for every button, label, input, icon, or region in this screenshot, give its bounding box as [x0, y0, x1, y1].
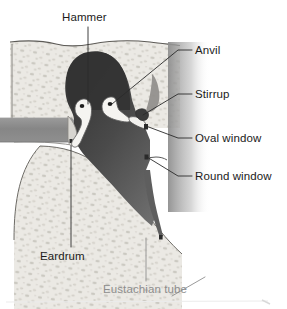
right-edge-shading — [168, 42, 210, 212]
label-stirrup: Stirrup — [195, 88, 230, 101]
label-oval-window: Oval window — [195, 132, 261, 145]
ear-canal — [0, 118, 74, 142]
label-anvil: Anvil — [195, 44, 220, 57]
label-hammer: Hammer — [62, 11, 107, 24]
label-eardrum: Eardrum — [40, 250, 85, 263]
label-round-window: Round window — [195, 170, 272, 183]
label-eustachian-tube: Eustachian tube — [103, 283, 187, 296]
